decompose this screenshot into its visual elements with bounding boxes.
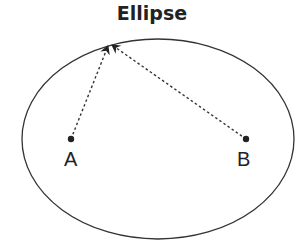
focus-a-label: A [64,148,77,171]
focus-b-ray [112,45,246,139]
ellipse-diagram [0,0,304,245]
focus-b-label: B [237,148,250,171]
focus-b-dot [243,136,249,142]
focus-a-ray [71,46,108,139]
ellipse-outline [22,39,294,239]
focus-a-dot [68,136,74,142]
